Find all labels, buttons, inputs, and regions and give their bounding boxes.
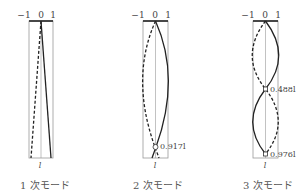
mode2-node-marker — [153, 145, 158, 150]
tick-1: 1 — [165, 10, 171, 20]
mode3-caption: 3 次モード — [243, 177, 293, 192]
mode-shapes-diagram: −1 0 1 l −1 0 1 0.917l l −1 0 1 0.488l — [0, 0, 308, 195]
mode1-panel: −1 0 1 l — [17, 10, 56, 170]
mode3-length-label: l — [264, 161, 267, 170]
tick-minus1: −1 — [17, 10, 30, 20]
mode2-length-label: l — [154, 161, 157, 170]
tick-minus1: −1 — [131, 10, 144, 20]
tick-0: 0 — [262, 10, 268, 20]
tick-minus1: −1 — [241, 10, 254, 20]
mode3-node-label-2: 0.976l — [270, 150, 296, 159]
mode3-node-marker-1 — [264, 87, 268, 91]
mode2-caption: 2 次モード — [133, 177, 183, 192]
tick-1: 1 — [50, 10, 56, 20]
mode2-node-label: 0.917l — [160, 142, 186, 151]
mode3-panel: −1 0 1 0.488l 0.976l l — [241, 10, 296, 170]
mode3-node-label-1: 0.488l — [270, 85, 296, 94]
mode1-dashed-shape — [31, 21, 41, 158]
mode2-panel: −1 0 1 0.917l l — [131, 10, 186, 170]
mode2-solid-shape — [152, 21, 168, 158]
tick-0: 0 — [152, 10, 158, 20]
mode1-solid-shape — [41, 21, 51, 158]
tick-0: 0 — [38, 10, 44, 20]
mode1-caption: 1 次モード — [20, 177, 70, 192]
mode3-node-marker-2 — [264, 152, 268, 156]
mode2-dashed-shape — [143, 21, 159, 158]
tick-1: 1 — [275, 10, 281, 20]
mode1-length-label: l — [39, 161, 42, 170]
